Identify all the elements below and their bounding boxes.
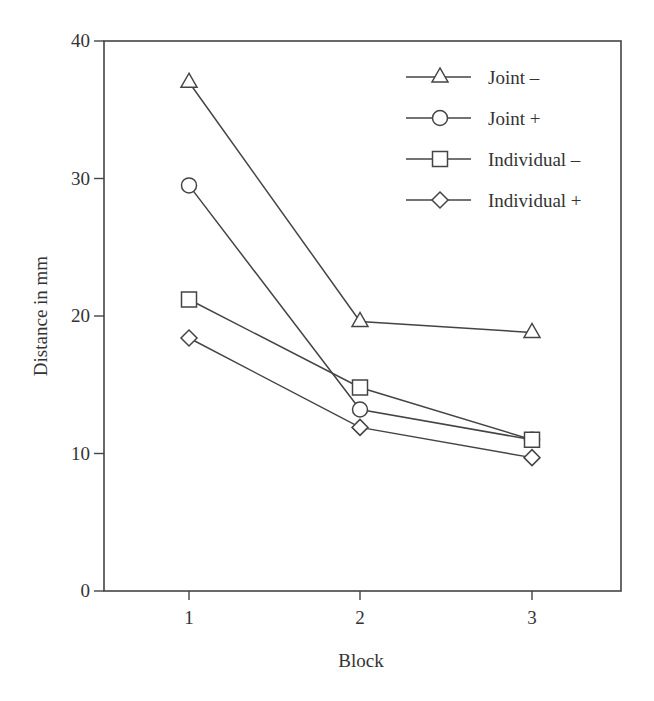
x-axis-label: Block [338,650,384,671]
y-axis-label: Distance in mm [30,256,51,377]
x-tick-label: 1 [184,607,194,628]
y-tick-label: 0 [81,580,91,601]
legend-label: Joint – [488,67,540,88]
legend-item: Individual + [406,190,582,211]
x-axis: 123 [184,591,537,628]
series-triangle [189,82,532,332]
square-marker [433,152,448,167]
triangle-marker [524,324,540,338]
legend-label: Individual – [488,149,581,170]
y-tick-label: 20 [71,305,90,326]
y-tick-label: 10 [71,443,90,464]
diamond-marker [432,192,448,208]
legend: Joint –Joint +Individual –Individual + [406,67,582,211]
circle-marker [353,402,368,417]
triangle-marker [432,68,448,82]
legend-label: Individual + [488,190,582,211]
legend-item: Joint + [406,108,540,129]
square-marker [182,292,197,307]
diamond-marker [181,330,197,346]
diamond-marker [524,450,540,466]
series-diamond [189,338,532,458]
square-marker [353,380,368,395]
data-series [181,73,540,465]
legend-label: Joint + [488,108,540,129]
legend-item: Individual – [406,149,581,170]
x-tick-label: 3 [527,607,537,628]
diamond-marker [352,419,368,435]
line-chart: 010203040 123 Distance in mm Block Joint… [0,0,654,701]
circle-marker [433,111,448,126]
y-tick-label: 40 [71,30,90,51]
x-tick-label: 2 [355,607,365,628]
triangle-marker [181,73,197,87]
y-axis: 010203040 [71,30,104,601]
circle-marker [182,178,197,193]
y-tick-label: 30 [71,168,90,189]
square-marker [525,432,540,447]
legend-item: Joint – [406,67,540,88]
